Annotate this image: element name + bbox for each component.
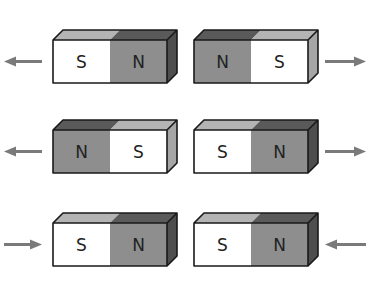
arrow-row3-right-icon bbox=[325, 240, 366, 250]
bar-magnets-diagram: SNNSNSSNSNSN bbox=[0, 0, 387, 282]
magnet-row3-left: SN bbox=[53, 213, 177, 266]
top-face-right bbox=[251, 30, 318, 40]
pole-label: S bbox=[217, 235, 228, 255]
arrow-row3-left-icon bbox=[4, 240, 42, 250]
top-face-left bbox=[194, 120, 261, 130]
magnet-row2-right: SN bbox=[194, 120, 318, 173]
arrow-row2-left-icon bbox=[4, 147, 42, 157]
magnet-row3-right: SN bbox=[194, 213, 318, 266]
top-face-right bbox=[110, 213, 177, 223]
pole-label: N bbox=[132, 235, 145, 255]
pole-label: S bbox=[217, 142, 228, 162]
pole-label: N bbox=[132, 52, 145, 72]
arrow-row1-right-icon bbox=[325, 57, 366, 67]
top-face-left bbox=[194, 30, 261, 40]
magnet-row1-left: SN bbox=[53, 30, 177, 83]
magnet-row2-left: NS bbox=[53, 120, 177, 173]
arrow-row1-left-icon bbox=[4, 57, 42, 67]
top-face-right bbox=[110, 120, 177, 130]
pole-label: N bbox=[216, 52, 229, 72]
pole-label: S bbox=[274, 52, 285, 72]
top-face-left bbox=[53, 213, 120, 223]
top-face-right bbox=[251, 213, 318, 223]
top-face-left bbox=[53, 120, 120, 130]
top-face-right bbox=[251, 120, 318, 130]
pole-label: N bbox=[75, 142, 88, 162]
pole-label: S bbox=[76, 235, 87, 255]
pole-label: S bbox=[76, 52, 87, 72]
arrow-row2-right-icon bbox=[325, 147, 366, 157]
pole-label: S bbox=[133, 142, 144, 162]
magnet-row1-right: NS bbox=[194, 30, 318, 83]
pole-label: N bbox=[273, 235, 286, 255]
top-face-right bbox=[110, 30, 177, 40]
top-face-left bbox=[194, 213, 261, 223]
pole-label: N bbox=[273, 142, 286, 162]
top-face-left bbox=[53, 30, 120, 40]
